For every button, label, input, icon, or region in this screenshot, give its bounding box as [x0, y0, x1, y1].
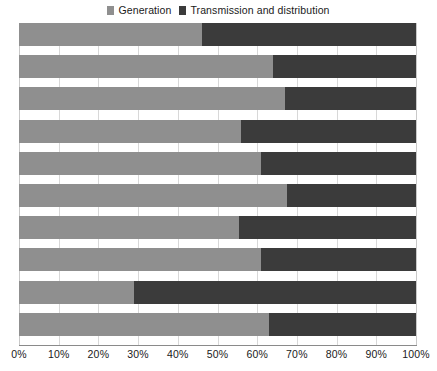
bar-segment[interactable] [239, 216, 416, 239]
legend-swatch-transmission-and-distribution-icon [179, 6, 186, 15]
x-axis-line [19, 345, 417, 346]
bar-row[interactable] [19, 23, 416, 46]
plot-area [19, 23, 416, 345]
x-tick-label: 90% [365, 348, 387, 361]
bar-segment[interactable] [19, 120, 241, 143]
x-tick-label: 80% [326, 348, 348, 361]
bar-row[interactable] [19, 55, 416, 78]
bar-segment[interactable] [261, 248, 416, 271]
bar-series-group [19, 23, 416, 345]
legend-entry-generation[interactable]: Generation [107, 5, 171, 16]
bar-segment[interactable] [285, 87, 416, 110]
x-tick-label: 50% [207, 348, 229, 361]
x-tick-label: 70% [286, 348, 308, 361]
x-tick-label: 60% [246, 348, 268, 361]
legend-entry-transmission-and-distribution[interactable]: Transmission and distribution [179, 5, 329, 16]
bar-segment[interactable] [287, 184, 416, 207]
bar-segment[interactable] [19, 281, 134, 304]
bar-segment[interactable] [19, 55, 273, 78]
bar-segment[interactable] [19, 313, 269, 336]
bar-segment[interactable] [134, 281, 416, 304]
bar-segment[interactable] [19, 248, 261, 271]
gridline [416, 23, 417, 345]
legend-label-generation: Generation [118, 5, 171, 16]
x-tick-label: 100% [402, 348, 430, 361]
bar-segment[interactable] [241, 120, 416, 143]
bar-segment[interactable] [19, 216, 239, 239]
legend-swatch-generation-icon [107, 6, 114, 15]
bar-row[interactable] [19, 152, 416, 175]
bar-segment[interactable] [261, 152, 416, 175]
x-tick-label: 40% [167, 348, 189, 361]
bar-segment[interactable] [19, 184, 287, 207]
bar-segment[interactable] [202, 23, 416, 46]
bar-segment[interactable] [19, 23, 202, 46]
stacked-bar-chart: Generation Transmission and distribution… [0, 0, 437, 371]
bar-row[interactable] [19, 184, 416, 207]
bar-row[interactable] [19, 248, 416, 271]
x-tick-label: 10% [48, 348, 70, 361]
bar-row[interactable] [19, 281, 416, 304]
x-tick-label: 0% [11, 348, 27, 361]
x-tick-label: 20% [88, 348, 110, 361]
bar-row[interactable] [19, 216, 416, 239]
bar-row[interactable] [19, 313, 416, 336]
chart-legend: Generation Transmission and distribution [0, 3, 437, 17]
bar-segment[interactable] [19, 87, 285, 110]
bar-row[interactable] [19, 87, 416, 110]
legend-label-transmission-and-distribution: Transmission and distribution [190, 5, 329, 16]
x-axis-tick-labels: 0%10%20%30%40%50%60%70%80%90%100% [0, 348, 437, 368]
bar-segment[interactable] [273, 55, 416, 78]
bar-segment[interactable] [269, 313, 416, 336]
x-tick-label: 30% [127, 348, 149, 361]
bar-row[interactable] [19, 120, 416, 143]
bar-segment[interactable] [19, 152, 261, 175]
